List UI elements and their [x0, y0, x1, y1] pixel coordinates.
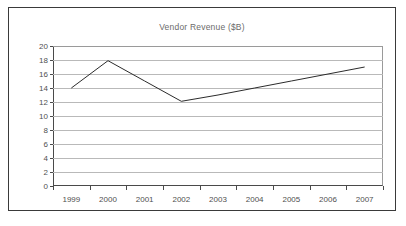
- chart-title: Vendor Revenue ($B): [9, 22, 395, 32]
- x-axis-label: 1999: [62, 195, 80, 204]
- x-axis-label: 2007: [356, 195, 374, 204]
- x-axis-label: 2003: [209, 195, 227, 204]
- series-layer: [53, 46, 383, 186]
- y-axis-label: 2: [44, 168, 48, 177]
- revenue-line: [71, 61, 364, 102]
- x-axis-label: 2006: [319, 195, 337, 204]
- y-axis-label: 16: [39, 70, 48, 79]
- x-axis-tick: [346, 186, 347, 190]
- y-axis-label: 14: [39, 84, 48, 93]
- x-axis-tick: [236, 186, 237, 190]
- x-axis-label: 2002: [172, 195, 190, 204]
- x-axis-tick: [126, 186, 127, 190]
- x-axis-tick: [310, 186, 311, 190]
- x-axis-label: 2004: [246, 195, 264, 204]
- x-axis-tick: [200, 186, 201, 190]
- y-axis-label: 6: [44, 140, 48, 149]
- y-axis-label: 18: [39, 56, 48, 65]
- x-axis-label: 2000: [99, 195, 117, 204]
- y-axis-label: 4: [44, 154, 48, 163]
- x-axis-tick: [383, 186, 384, 190]
- y-axis-label: 10: [39, 112, 48, 121]
- x-axis-tick: [273, 186, 274, 190]
- y-axis-label: 20: [39, 42, 48, 51]
- chart-frame: Vendor Revenue ($B) 02468101214161820 19…: [8, 7, 396, 211]
- x-axis-label: 2005: [282, 195, 300, 204]
- x-axis-label: 2001: [136, 195, 154, 204]
- x-axis-tick: [53, 186, 54, 190]
- plot-wrapper: 02468101214161820 1999200020012002200320…: [53, 46, 383, 186]
- x-axis-tick: [90, 186, 91, 190]
- x-axis-tick: [163, 186, 164, 190]
- y-axis-label: 12: [39, 98, 48, 107]
- y-axis-label: 0: [44, 182, 48, 191]
- y-axis-label: 8: [44, 126, 48, 135]
